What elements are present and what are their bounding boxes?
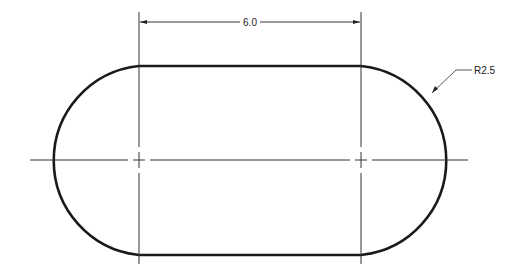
technical-drawing: 6.0 R2.5: [0, 0, 528, 280]
center-distance-dimension: 6.0: [140, 17, 360, 28]
center-distance-label: 6.0: [243, 17, 257, 28]
radius-dimension: R2.5: [432, 65, 496, 93]
leader-arrowhead-icon: [432, 86, 438, 93]
radius-label: R2.5: [474, 65, 496, 76]
arrowhead-left-icon: [140, 20, 147, 24]
arrowhead-right-icon: [353, 20, 360, 24]
